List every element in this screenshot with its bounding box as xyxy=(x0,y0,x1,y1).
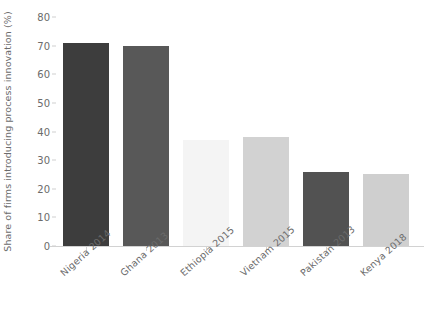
bar-series xyxy=(56,17,416,246)
y-tick-label: 10 xyxy=(37,212,50,223)
y-tick-label: 70 xyxy=(37,40,50,51)
bar xyxy=(123,46,169,246)
y-tick-label: 50 xyxy=(37,97,50,108)
y-axis-title-text: Share of firms introducing process innov… xyxy=(2,11,13,251)
y-tick-label: 40 xyxy=(37,126,50,137)
y-tick-label: 80 xyxy=(37,12,50,23)
y-tick-label: 60 xyxy=(37,69,50,80)
y-axis-title: Share of firms introducing process innov… xyxy=(0,0,14,262)
bar-chart: Share of firms introducing process innov… xyxy=(0,0,430,319)
x-axis-labels: Nigeria 2014Ghana 2013Ethiopia 2015Vietn… xyxy=(0,246,430,319)
y-axis-ticks: 01020304050607080 xyxy=(18,17,56,246)
y-tick-label: 30 xyxy=(37,155,50,166)
bar xyxy=(63,43,109,246)
y-tick-label: 20 xyxy=(37,183,50,194)
